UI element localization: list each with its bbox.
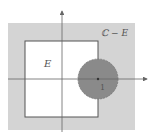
diagram-canvas: E ℂ − E 1 [0, 0, 156, 138]
label-set-e: E [43, 58, 52, 69]
label-complement: ℂ − E [101, 28, 128, 38]
label-unit: 1 [100, 83, 105, 92]
unit-point [97, 78, 99, 80]
